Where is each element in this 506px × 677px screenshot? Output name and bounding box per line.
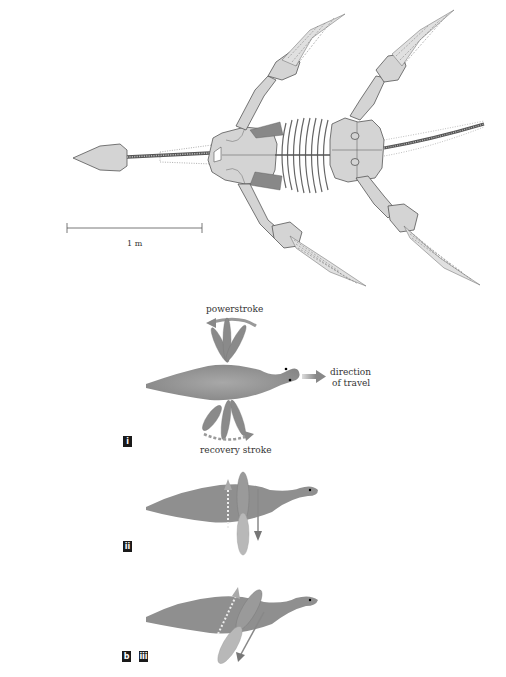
flipper-ii-down xyxy=(237,513,249,555)
direction-label-1: direction xyxy=(330,367,371,377)
figure-canvas: 1 m powerstroke recovery stroke xyxy=(0,0,506,677)
hind-flipper-lower xyxy=(356,176,480,285)
panel-i: powerstroke recovery stroke direction of… xyxy=(146,304,371,455)
plesiosaur-body-ii xyxy=(146,484,318,522)
part-tag-b: b xyxy=(122,651,131,662)
panel-tag-iii: iii xyxy=(139,651,148,662)
scale-bar xyxy=(67,223,202,233)
panel-ii xyxy=(146,472,318,555)
hind-flipper-upper xyxy=(350,10,454,120)
recovery-stroke-label: recovery stroke xyxy=(200,445,271,455)
plesiosaur-body-i xyxy=(146,365,300,401)
plesiosaur-body-iii xyxy=(146,596,318,633)
skull xyxy=(73,144,127,171)
tail-vertebrae xyxy=(384,121,484,156)
gastralia-lower xyxy=(250,172,282,190)
direction-arrow-shaft xyxy=(302,374,316,379)
ribs xyxy=(275,118,330,193)
panel-tag-i: i xyxy=(123,436,132,447)
front-flipper-upper xyxy=(236,14,345,130)
direction-label-2: of travel xyxy=(332,378,370,388)
scale-bar-label: 1 m xyxy=(127,239,143,248)
powerstroke-label: powerstroke xyxy=(206,304,263,314)
neck-vertebrae xyxy=(127,145,212,164)
gastralia-upper xyxy=(250,122,283,138)
front-flipper-lower xyxy=(238,184,366,286)
plesiosaur-skeleton: 1 m xyxy=(67,10,484,286)
panel-tag-ii: ii xyxy=(123,541,132,552)
powerstroke-arrow xyxy=(212,319,256,326)
panel-iii xyxy=(146,587,318,667)
direction-arrow-head xyxy=(316,370,326,383)
